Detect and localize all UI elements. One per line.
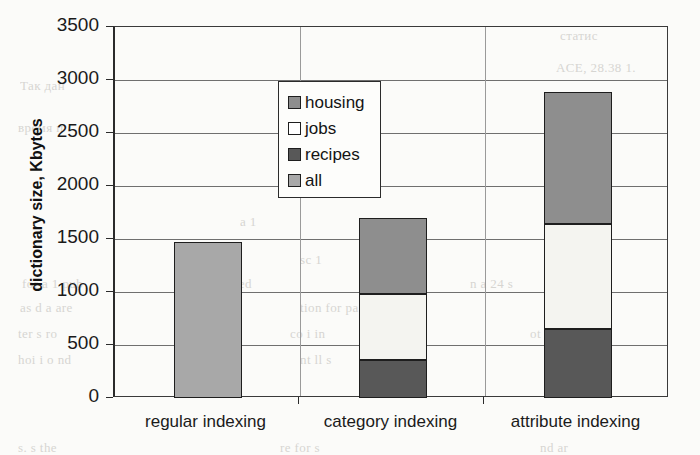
legend-swatch-icon (288, 96, 301, 109)
plot-area: housingjobsrecipesall (113, 26, 668, 397)
y-axis-tick (106, 132, 113, 133)
x-axis-tick-label: attribute indexing (483, 412, 668, 432)
bar-segment-housing (544, 92, 612, 223)
legend-item-label: housing (305, 94, 365, 111)
legend-item-all: all (288, 167, 380, 193)
bar-segment-jobs (544, 224, 612, 329)
y-axis-tick-label: 1000 (0, 279, 99, 301)
y-axis-tick-label: 1500 (0, 226, 99, 248)
y-axis-tick (106, 238, 113, 239)
chart-legend: housingjobsrecipesall (278, 81, 381, 198)
bar-group-attribute-indexing (544, 27, 612, 398)
bar-segment-all (174, 242, 242, 398)
bar-segment-recipes (359, 360, 427, 398)
x-axis-tick (483, 397, 484, 404)
x-axis-tick (298, 397, 299, 404)
y-axis-tick (106, 79, 113, 80)
y-axis-tick-label: 3500 (0, 14, 99, 36)
bar-chart: dictionary size, Kbytes 0500100015002000… (0, 0, 700, 455)
legend-item-label: jobs (305, 120, 336, 137)
legend-swatch-icon (288, 122, 301, 135)
y-axis-tick (106, 397, 113, 398)
y-axis-tick (106, 291, 113, 292)
legend-swatch-icon (288, 174, 301, 187)
bar-segment-housing (359, 218, 427, 294)
y-axis-tick-label: 3000 (0, 67, 99, 89)
legend-swatch-icon (288, 148, 301, 161)
legend-item-label: all (305, 172, 322, 189)
y-axis-tick-label: 2000 (0, 173, 99, 195)
legend-item-housing: housing (288, 89, 380, 115)
legend-item-jobs: jobs (288, 115, 380, 141)
y-axis-tick-label: 2500 (0, 120, 99, 142)
bar-group-regular-indexing (174, 27, 242, 398)
x-axis-tick-label: regular indexing (113, 412, 298, 432)
legend-item-recipes: recipes (288, 141, 380, 167)
bar-segment-recipes (544, 329, 612, 398)
y-axis-tick-label: 0 (0, 385, 99, 407)
y-axis-tick-label: 500 (0, 332, 99, 354)
y-axis-tick (106, 185, 113, 186)
legend-item-label: recipes (305, 146, 360, 163)
bar-segment-jobs (359, 294, 427, 360)
y-axis-tick (106, 344, 113, 345)
category-divider (485, 27, 486, 396)
y-axis-tick (106, 26, 113, 27)
x-axis-tick-label: category indexing (298, 412, 483, 432)
